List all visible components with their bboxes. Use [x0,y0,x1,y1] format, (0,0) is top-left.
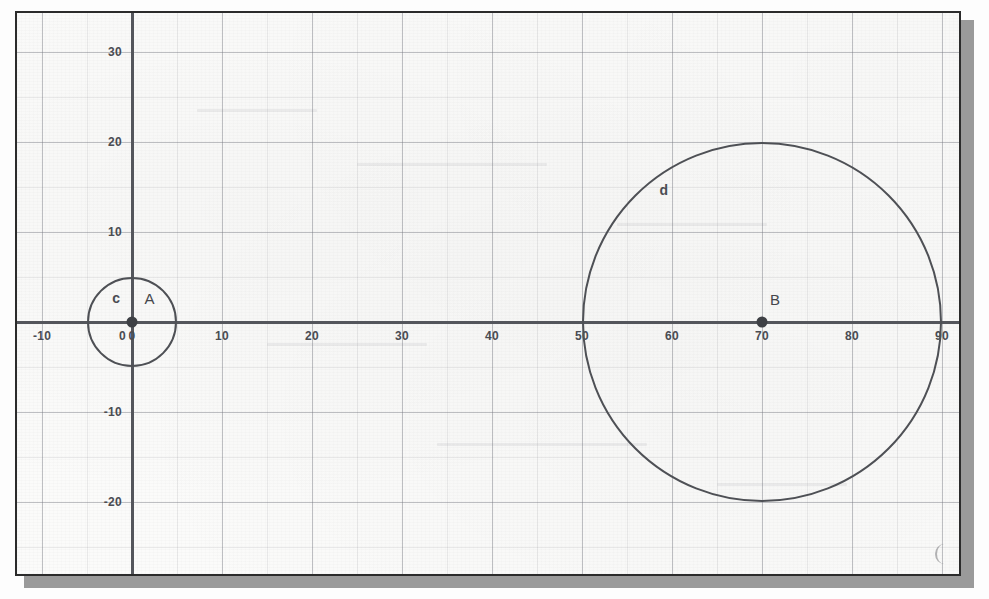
gridline-major-vertical [582,13,583,574]
gridline-major-vertical [492,13,493,574]
point-label-A: A [145,290,155,307]
gridline-major-vertical [942,13,943,574]
gridline-major-vertical [222,13,223,574]
plot-area: -100102030405060708090302010-10-20-300cA… [17,13,959,574]
y-axis-tick-label: 10 [86,225,122,239]
gridline-minor-horizontal [17,97,959,98]
point-B [757,317,768,328]
gridline-major-horizontal [17,502,959,503]
x-axis-tick-label: 10 [215,329,229,343]
gridline-major-horizontal [17,142,959,143]
gridline-major-horizontal [17,52,959,53]
scanned-page-background: -100102030405060708090302010-10-20-300cA… [0,0,989,599]
gridline-major-vertical [402,13,403,574]
figure-frame: -100102030405060708090302010-10-20-300cA… [15,11,961,576]
gridline-major-vertical [42,13,43,574]
gridline-minor-horizontal [17,547,959,548]
curve-label-d: d [659,182,668,198]
curve-label-c: c [112,290,120,306]
y-axis-tick-label: 20 [86,135,122,149]
y-axis-tick-label: 30 [86,45,122,59]
y-axis-tick-label: -10 [86,405,122,419]
point-label-B: B [770,291,780,308]
x-axis-tick-label: 20 [305,329,319,343]
x-axis-tick-label: 40 [485,329,499,343]
y-axis-tick-label: -20 [86,495,122,509]
point-A [127,317,138,328]
x-axis-tick-label: -10 [33,329,51,343]
x-axis-tick-label: 30 [395,329,409,343]
gridline-major-vertical [312,13,313,574]
